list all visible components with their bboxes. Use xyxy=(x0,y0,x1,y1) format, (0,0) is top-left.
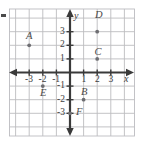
x-tick-label--3: -3 xyxy=(25,75,33,85)
x-tick-label-1: 1 xyxy=(81,75,86,85)
point-label-B: B xyxy=(81,87,87,98)
x-tick-label-3: 3 xyxy=(109,75,114,85)
x-tick-label--2: -2 xyxy=(39,75,47,85)
y-tick-label--1: -1 xyxy=(57,81,65,91)
point-F-dot xyxy=(68,111,72,115)
point-label-A: A xyxy=(26,31,32,42)
coordinate-grid-svg xyxy=(0,0,141,145)
point-C-dot xyxy=(95,57,99,61)
y-tick-label--3: -3 xyxy=(57,108,65,118)
y-tick-label-3: 3 xyxy=(60,27,65,37)
point-A-dot xyxy=(27,43,31,47)
point-D-dot xyxy=(95,30,99,34)
point-label-E: E xyxy=(40,88,46,99)
y-tick-label-2: 2 xyxy=(60,40,65,50)
y-tick-label-1: 1 xyxy=(60,54,65,64)
coordinate-plane-figure: y x -3 -2 -1 1 2 3 3 2 1 -1 -2 -3 A B C … xyxy=(0,0,141,145)
point-label-D: D xyxy=(95,10,103,21)
x-axis-label: x xyxy=(124,74,128,84)
point-label-F: F xyxy=(76,107,82,118)
point-label-C: C xyxy=(95,47,102,58)
y-tick-label--2: -2 xyxy=(57,95,65,105)
point-B-dot xyxy=(82,98,86,102)
y-axis-label: y xyxy=(74,11,78,21)
x-tick-label-2: 2 xyxy=(95,75,100,85)
